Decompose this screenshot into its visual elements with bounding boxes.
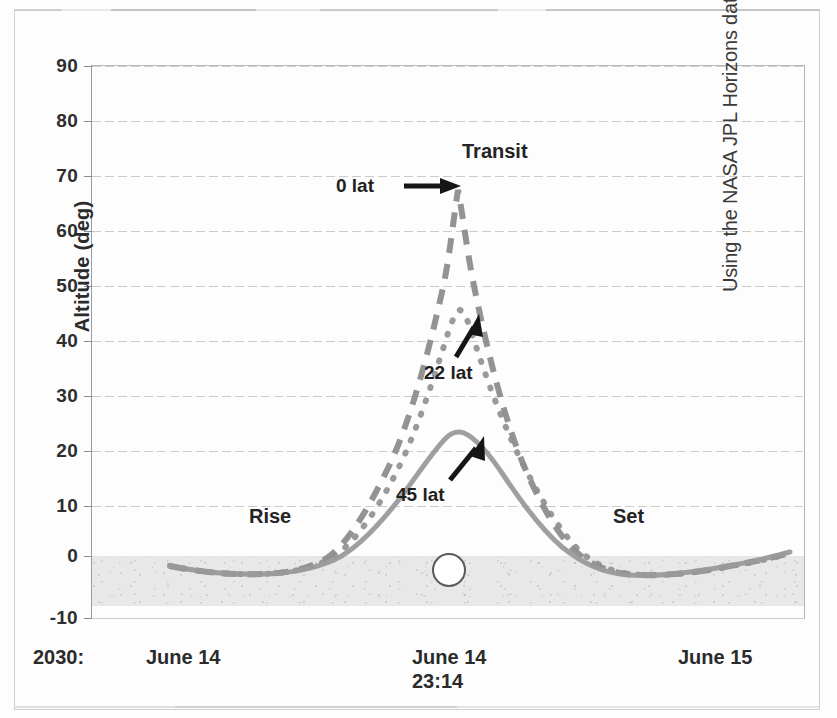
- series-path-45lat: [170, 432, 790, 575]
- x-axis-label-center: June 14: [412, 645, 486, 670]
- annotation-rise: Rise: [249, 505, 291, 528]
- y-tick-label-10: 10: [22, 495, 78, 517]
- gridline-60: [92, 231, 805, 232]
- callout-arrow-22lat: [456, 314, 483, 357]
- moon-marker: [432, 553, 466, 587]
- callout-arrow-0lat: [404, 178, 461, 194]
- gridline-20: [92, 451, 805, 452]
- annotation-45-lat: 45 lat: [396, 484, 445, 506]
- x-axis-label-right: June 15: [678, 645, 752, 670]
- callout-arrow-45lat: [450, 436, 485, 480]
- annotation-0-lat: 0 lat: [336, 175, 374, 197]
- series-path-22lat: [170, 310, 790, 575]
- y-tickmark-10: [84, 506, 92, 507]
- gridline-50: [92, 286, 805, 287]
- plot-bottom-edge: [92, 618, 805, 619]
- gridline-80: [92, 121, 805, 122]
- y-tickmark-80: [84, 121, 92, 122]
- y-tick-label-90: 90: [22, 55, 78, 77]
- y-tick-label-20: 20: [22, 440, 78, 462]
- annotation-set: Set: [613, 505, 644, 528]
- altitude-chart-figure: 90 80 70 60 50 40 30 20 10 0 -10 Altitud…: [0, 0, 837, 718]
- gridline-70: [92, 176, 805, 177]
- y-tickmark-90: [84, 66, 92, 67]
- gridline-10: [92, 506, 805, 507]
- x-axis-label-center-time: 23:14: [412, 669, 463, 694]
- y-tick-label-80: 80: [22, 110, 78, 132]
- y-tickmark-minus10: [84, 618, 92, 619]
- y-axis-title: Altitude (deg): [71, 152, 94, 382]
- source-credit: Using the NASA JPL Horizons data service…: [719, 0, 742, 292]
- y-tickmark-0: [84, 556, 92, 557]
- gridline-30: [92, 396, 805, 397]
- x-axis-label-left: June 14: [146, 645, 220, 670]
- plot-top-edge: [92, 65, 805, 66]
- y-tick-label-30: 30: [22, 385, 78, 407]
- y-tickmark-20: [84, 451, 92, 452]
- annotation-transit: Transit: [462, 140, 528, 163]
- annotation-22-lat: 22 lat: [424, 362, 473, 384]
- y-tick-label-0: 0: [22, 545, 78, 567]
- y-tick-label-minus10: -10: [22, 607, 78, 629]
- y-tickmark-30: [84, 396, 92, 397]
- gridline-40: [92, 341, 805, 342]
- page-border-bottom-edge: [14, 706, 820, 708]
- page-border-top-edge: [14, 9, 820, 11]
- gridline-90: [92, 66, 805, 67]
- series-curves: [0, 0, 837, 718]
- plot-right-edge: [804, 65, 805, 619]
- x-axis-year-label: 2030:: [33, 645, 84, 670]
